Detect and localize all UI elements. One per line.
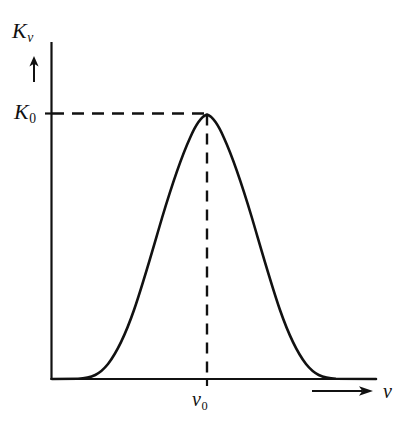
absorption-profile-curve — [52, 115, 376, 380]
x-axis-center-symbol: ν — [192, 388, 201, 410]
y-axis-peak-subscript: 0 — [29, 111, 36, 126]
y-axis-label: Kν — [12, 20, 33, 42]
y-axis-label-symbol: K — [12, 18, 27, 43]
right-arrow-icon — [312, 386, 373, 396]
x-axis-label: ν — [383, 381, 392, 401]
x-axis-center-subscript: 0 — [202, 399, 208, 413]
y-axis-peak-label: K0 — [14, 101, 36, 123]
figure-container: Kν K0 ν0 ν — [0, 0, 402, 426]
x-axis-center-label: ν0 — [192, 389, 207, 409]
y-axis-peak-symbol: K — [14, 99, 29, 124]
absorption-line-profile-plot — [0, 0, 402, 426]
y-axis-label-subscript: ν — [27, 30, 33, 45]
x-axis-label-symbol: ν — [383, 380, 392, 402]
up-arrow-icon — [29, 56, 38, 82]
